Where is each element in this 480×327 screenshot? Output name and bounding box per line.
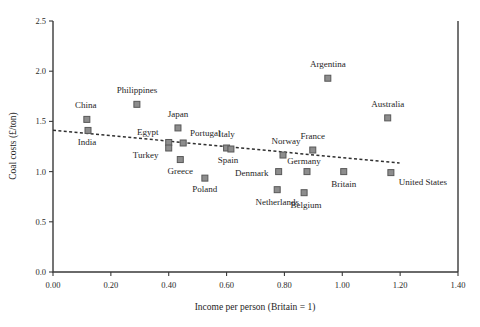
data-point-marker <box>202 175 208 181</box>
y-tick-label: 2.0 <box>35 66 46 76</box>
data-point-label: Italy <box>218 129 235 139</box>
data-point-label: Japan <box>168 109 189 119</box>
data-point-label: Poland <box>192 184 218 194</box>
data-labels-group: ChinaIndiaPhilippinesEgyptTurkeyJapanPor… <box>75 59 447 209</box>
data-point-label: China <box>75 100 97 110</box>
data-point-marker <box>385 115 391 121</box>
data-point-marker <box>301 190 307 196</box>
x-tick-label: 0.40 <box>161 280 176 290</box>
data-point-marker <box>280 152 286 158</box>
data-point-marker <box>228 146 234 152</box>
data-point-marker <box>177 157 183 163</box>
data-point-marker <box>276 169 282 175</box>
y-tick-label: 0.5 <box>35 217 46 227</box>
data-point-marker <box>304 169 310 175</box>
data-point-label: Egypt <box>137 127 159 137</box>
data-point-label: Britain <box>331 179 356 189</box>
data-point-label: India <box>78 137 97 147</box>
y-tick-label: 1.5 <box>35 116 46 126</box>
y-axis-title: Coal costs (£/ton) <box>8 112 19 180</box>
data-point-label: Denmark <box>235 168 269 178</box>
plot-area: 0.00.51.01.52.02.5 0.000.200.400.600.801… <box>0 0 480 327</box>
data-point-label: Germany <box>287 156 321 166</box>
x-tick-label: 0.80 <box>277 280 292 290</box>
data-point-label: Spain <box>218 155 239 165</box>
data-point-marker <box>310 147 316 153</box>
x-axis-title: Income per person (Britain = 1) <box>195 302 316 313</box>
data-point-marker <box>134 101 140 107</box>
axes-group <box>53 21 458 272</box>
data-point-marker <box>388 170 394 176</box>
data-point-label: Greece <box>168 166 193 176</box>
data-point-marker <box>180 140 186 146</box>
axis-frame <box>53 21 458 272</box>
x-tick-label: 1.00 <box>335 280 350 290</box>
data-point-label: Australia <box>371 99 404 109</box>
data-point-label: Argentina <box>310 59 346 69</box>
x-tick-label: 1.20 <box>393 280 408 290</box>
data-point-marker <box>274 187 280 193</box>
x-tick-label: 1.40 <box>451 280 466 290</box>
x-tick-label: 0.20 <box>103 280 118 290</box>
data-point-label: Portugal <box>190 128 221 138</box>
data-point-marker <box>84 116 90 122</box>
y-tick-label: 1.0 <box>35 167 46 177</box>
data-point-marker <box>341 169 347 175</box>
data-point-label: Turkey <box>133 150 159 160</box>
data-point-marker <box>325 75 331 81</box>
data-point-marker <box>175 125 181 131</box>
y-tick-label: 0.0 <box>35 267 46 277</box>
data-point-label: Norway <box>271 136 300 146</box>
data-point-label: Belgium <box>291 200 322 210</box>
data-point-label: Philippines <box>117 85 158 95</box>
data-point-marker <box>85 127 91 133</box>
x-tick-label: 0.00 <box>46 280 61 290</box>
data-point-label: United States <box>399 177 448 187</box>
y-axis-ticks: 0.00.51.01.52.02.5 <box>35 16 53 277</box>
x-axis-ticks: 0.000.200.400.600.801.001.201.40 <box>46 272 466 290</box>
scatter-chart-figure: 0.00.51.01.52.02.5 0.000.200.400.600.801… <box>0 0 480 327</box>
data-point-label: France <box>301 131 326 141</box>
data-point-marker <box>166 145 172 151</box>
y-tick-label: 2.5 <box>35 16 46 26</box>
x-tick-label: 0.60 <box>219 280 234 290</box>
